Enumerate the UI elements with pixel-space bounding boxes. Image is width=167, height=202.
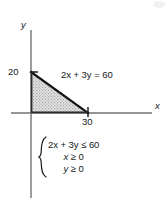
inequality-graph-figure: y x 20 30 2x + 3y = 60 2x + 3y ≤ 60 x ≥ … <box>0 0 167 202</box>
x-axis-label: x <box>155 101 160 111</box>
x-tick-label-30: 30 <box>82 117 92 127</box>
left-curly-brace-icon <box>38 136 47 178</box>
inequality-line-3: y ≥ 0 <box>48 164 99 174</box>
inequality-list: 2x + 3y ≤ 60 x ≥ 0 y ≥ 0 <box>47 136 99 178</box>
inequality-line-2: x ≥ 0 <box>48 152 99 162</box>
boundary-equation-label: 2x + 3y = 60 <box>61 70 113 80</box>
system-of-inequalities: 2x + 3y ≤ 60 x ≥ 0 y ≥ 0 <box>38 136 99 178</box>
y-tick-label-20: 20 <box>8 67 18 77</box>
y-axis-label: y <box>21 20 26 30</box>
inequality-line-1: 2x + 3y ≤ 60 <box>48 140 99 150</box>
